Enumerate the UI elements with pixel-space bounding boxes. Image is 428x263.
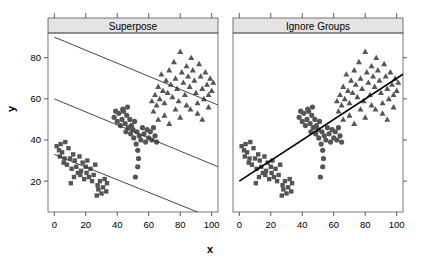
data-point xyxy=(251,146,255,150)
data-point xyxy=(196,61,202,66)
data-point xyxy=(166,67,172,72)
data-point xyxy=(63,140,67,144)
data-point xyxy=(206,104,212,109)
figure-panel-plot: Superpose02040608010020406080Ignore Grou… xyxy=(0,0,428,263)
data-point xyxy=(369,63,375,68)
data-point xyxy=(267,177,271,181)
data-point xyxy=(319,142,324,147)
data-point xyxy=(250,162,254,166)
data-point xyxy=(339,139,344,144)
data-point xyxy=(177,49,183,54)
data-point xyxy=(303,123,308,128)
data-point xyxy=(148,129,153,134)
data-point xyxy=(308,121,313,126)
data-point xyxy=(77,154,81,158)
panel-title: Superpose xyxy=(109,21,158,32)
y-tick-label: 20 xyxy=(30,176,41,187)
data-point xyxy=(188,55,194,60)
x-tick-label: 0 xyxy=(52,219,57,230)
data-point xyxy=(304,117,309,122)
data-point xyxy=(245,150,249,154)
data-point xyxy=(199,116,205,121)
data-point xyxy=(207,75,213,80)
data-point xyxy=(253,156,257,160)
data-point xyxy=(287,177,291,181)
data-point xyxy=(66,146,70,150)
x-tick-label: 80 xyxy=(360,219,371,230)
data-point xyxy=(305,107,310,112)
data-point xyxy=(380,110,386,115)
data-point xyxy=(348,77,354,82)
data-point xyxy=(115,119,120,124)
data-point xyxy=(263,173,267,177)
data-point xyxy=(98,179,102,183)
x-axis-label: x xyxy=(207,243,213,255)
x-tick-label: 0 xyxy=(237,219,242,230)
data-point xyxy=(79,169,83,173)
x-tick-label: 100 xyxy=(389,219,405,230)
data-point xyxy=(248,140,252,144)
data-point xyxy=(365,79,371,84)
data-point xyxy=(391,104,397,109)
data-point xyxy=(180,79,186,84)
data-point xyxy=(202,69,208,74)
data-point xyxy=(151,125,156,130)
data-point xyxy=(90,179,94,183)
data-point xyxy=(323,137,328,142)
data-point xyxy=(276,173,280,177)
data-point xyxy=(336,125,341,130)
data-point xyxy=(187,83,193,88)
data-point xyxy=(320,148,325,153)
data-point xyxy=(384,116,390,121)
data-point xyxy=(369,102,375,107)
data-point xyxy=(258,158,262,162)
data-point xyxy=(280,183,284,187)
data-point xyxy=(272,175,276,179)
data-point xyxy=(362,114,368,119)
data-point xyxy=(394,88,400,93)
data-point xyxy=(190,67,196,72)
data-point xyxy=(105,181,109,185)
data-point xyxy=(247,156,251,160)
data-point xyxy=(125,104,130,109)
data-point xyxy=(195,100,201,105)
data-point xyxy=(176,98,182,103)
data-point xyxy=(269,171,273,175)
data-point xyxy=(320,164,325,169)
data-point xyxy=(335,108,341,113)
data-point xyxy=(359,86,365,91)
data-point xyxy=(96,187,100,191)
data-point xyxy=(269,165,273,169)
data-point xyxy=(337,133,342,138)
data-point xyxy=(243,154,247,158)
data-point xyxy=(136,156,141,161)
data-point xyxy=(256,152,260,156)
data-point xyxy=(358,75,364,80)
data-point xyxy=(104,189,108,193)
data-point xyxy=(173,106,179,111)
y-tick-label: 80 xyxy=(30,52,41,63)
data-point xyxy=(161,112,167,117)
data-point xyxy=(152,133,157,138)
data-point xyxy=(318,174,323,179)
data-point xyxy=(131,135,136,140)
data-point xyxy=(69,167,73,171)
data-point xyxy=(376,77,382,82)
data-point xyxy=(184,63,190,68)
data-point xyxy=(85,158,89,162)
data-point xyxy=(340,116,346,121)
data-point xyxy=(184,102,190,107)
x-tick-label: 60 xyxy=(143,219,154,230)
data-point xyxy=(283,179,287,183)
data-point xyxy=(286,185,290,189)
data-point xyxy=(321,156,326,161)
y-tick-label: 60 xyxy=(30,93,41,104)
data-point xyxy=(340,83,346,88)
data-point xyxy=(333,129,338,134)
data-point xyxy=(93,162,97,166)
data-point xyxy=(143,139,148,144)
data-point xyxy=(334,137,339,142)
data-point xyxy=(346,112,352,117)
data-point xyxy=(298,109,303,114)
data-point xyxy=(297,115,302,120)
